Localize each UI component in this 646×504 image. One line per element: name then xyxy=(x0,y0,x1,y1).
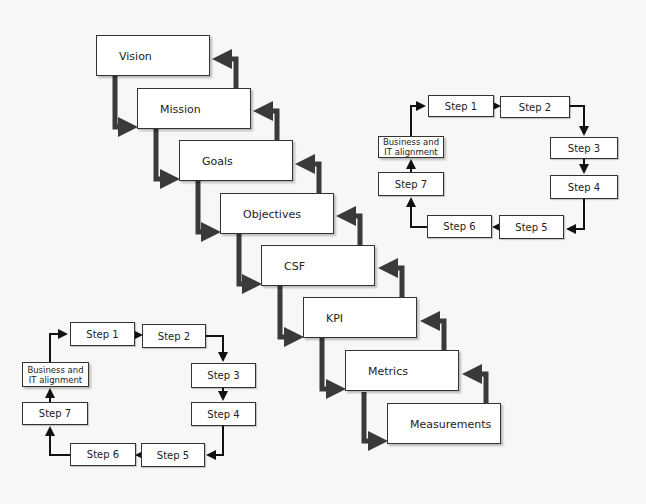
level-goals: Goals xyxy=(179,140,293,181)
tr-step-7: Step 7 xyxy=(378,172,444,196)
level-csf: CSF xyxy=(261,245,375,286)
bl-step-7: Step 7 xyxy=(22,402,88,425)
bl-step-2: Step 2 xyxy=(142,324,206,348)
bl-step-6: Step 6 xyxy=(70,443,136,466)
tr-step-2: Step 2 xyxy=(500,96,570,118)
level-vision: Vision xyxy=(96,35,210,76)
tr-business-it-alignment: Business and IT alignment xyxy=(378,136,444,158)
level-mission: Mission xyxy=(137,88,251,129)
bl-step-1: Step 1 xyxy=(70,322,135,346)
level-label: Goals xyxy=(202,141,233,182)
level-kpi: KPI xyxy=(303,297,417,338)
tr-step-6: Step 6 xyxy=(427,215,492,238)
tr-step-3: Step 3 xyxy=(550,137,618,159)
bl-step-4: Step 4 xyxy=(191,402,256,426)
bl-step-3: Step 3 xyxy=(191,363,256,388)
level-label: Metrics xyxy=(368,351,408,392)
level-label: Mission xyxy=(160,89,201,130)
tr-step-1: Step 1 xyxy=(428,95,494,117)
bl-business-it-alignment: Business and IT alignment xyxy=(22,362,89,387)
level-label: Objectives xyxy=(243,194,301,235)
bl-step-5: Step 5 xyxy=(141,443,205,467)
tr-step-5: Step 5 xyxy=(499,215,564,239)
level-label: Measurements xyxy=(410,404,491,445)
tr-step-4: Step 4 xyxy=(550,175,618,199)
level-metrics: Metrics xyxy=(345,350,459,391)
level-objectives: Objectives xyxy=(220,193,334,234)
level-label: Vision xyxy=(119,36,152,77)
level-measurements: Measurements xyxy=(387,403,501,444)
level-label: CSF xyxy=(284,246,305,287)
level-label: KPI xyxy=(326,298,343,339)
